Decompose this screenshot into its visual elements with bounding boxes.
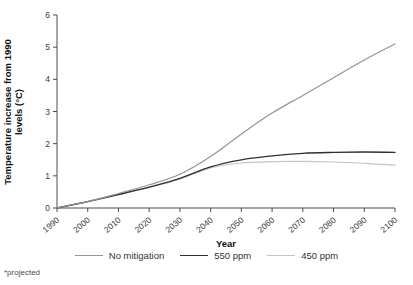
x-tick-label: 2080 bbox=[317, 215, 338, 235]
x-tick-label: 2010 bbox=[102, 215, 123, 235]
x-tick-label: 2090 bbox=[348, 215, 369, 235]
legend-item-no-mitigation: No mitigation bbox=[75, 250, 164, 261]
x-tick-label: 2060 bbox=[255, 215, 276, 235]
series-line-no-mitigation bbox=[57, 44, 395, 208]
legend-line-swatch bbox=[267, 255, 295, 256]
series-line-550-ppm bbox=[57, 152, 395, 208]
chart-figure: 0123456199020002010202020302040205020602… bbox=[0, 0, 413, 285]
chart-legend: No mitigation550 ppm450 ppm bbox=[0, 250, 413, 261]
y-tick-label: 2 bbox=[45, 139, 50, 149]
y-tick-label: 0 bbox=[45, 203, 50, 213]
x-tick-label: 1990 bbox=[40, 215, 61, 235]
x-tick-label: 2030 bbox=[163, 215, 184, 235]
plot-area: 0123456199020002010202020302040205020602… bbox=[40, 10, 399, 235]
x-tick-label: 2000 bbox=[71, 215, 92, 235]
legend-label: No mitigation bbox=[109, 250, 164, 261]
legend-label: 550 ppm bbox=[214, 250, 251, 261]
y-axis-title-line1: Temperature increase from 1990 bbox=[2, 39, 13, 185]
series-line-450-ppm bbox=[57, 161, 395, 208]
y-tick-label: 6 bbox=[45, 10, 50, 20]
legend-item-550-ppm: 550 ppm bbox=[180, 250, 251, 261]
projected-footnote: *projected bbox=[4, 268, 40, 277]
x-axis-title: Year bbox=[216, 238, 236, 249]
y-tick-label: 3 bbox=[45, 107, 50, 117]
y-axis-title-line2: levels (°C) bbox=[13, 89, 24, 135]
x-tick-label: 2100 bbox=[378, 215, 399, 235]
x-tick-label: 2020 bbox=[133, 215, 154, 235]
legend-item-450-ppm: 450 ppm bbox=[267, 250, 338, 261]
temperature-line-chart: 0123456199020002010202020302040205020602… bbox=[0, 0, 413, 250]
axes bbox=[57, 15, 395, 208]
y-tick-label: 5 bbox=[45, 42, 50, 52]
x-tick-label: 2040 bbox=[194, 215, 215, 235]
legend-label: 450 ppm bbox=[301, 250, 338, 261]
x-tick-label: 2070 bbox=[286, 215, 307, 235]
y-tick-label: 4 bbox=[45, 74, 50, 84]
legend-line-swatch bbox=[75, 255, 103, 256]
x-tick-label: 2050 bbox=[225, 215, 246, 235]
y-tick-label: 1 bbox=[45, 171, 50, 181]
legend-line-swatch bbox=[180, 255, 208, 256]
